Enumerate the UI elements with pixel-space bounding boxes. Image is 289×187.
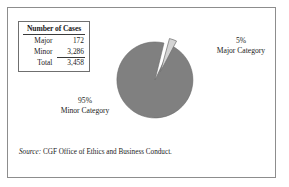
major-percent: 5%: [205, 36, 277, 46]
row-value-minor: 3,286: [57, 46, 85, 57]
number-of-cases-table: Number of Cases Major 172 Minor 3,286 To…: [18, 21, 90, 72]
table-row: Minor 3,286: [23, 46, 85, 57]
minor-name: Minor Category: [40, 106, 130, 116]
source-text: CGF Office of Ethics and Business Conduc…: [43, 148, 172, 156]
row-label-total: Total: [23, 57, 57, 68]
minor-percent: 95%: [40, 96, 130, 106]
table-row: Total 3,458: [23, 57, 85, 68]
source-note: Source: CGF Office of Ethics and Busines…: [19, 148, 172, 157]
table-row: Major 172: [23, 34, 85, 46]
source-prefix: Source:: [19, 148, 41, 156]
row-label-major: Major: [23, 34, 57, 46]
table: Number of Cases Major 172 Minor 3,286 To…: [23, 24, 85, 68]
label-minor-category: 95% Minor Category: [40, 96, 130, 117]
major-name: Major Category: [205, 46, 277, 56]
row-value-major: 172: [57, 34, 85, 46]
table-title: Number of Cases: [23, 24, 85, 34]
row-label-minor: Minor: [23, 46, 57, 57]
table-header-row: Number of Cases: [23, 24, 85, 34]
pie-chart-figure: Number of Cases Major 172 Minor 3,286 To…: [0, 0, 289, 187]
label-major-category: 5% Major Category: [205, 36, 277, 57]
row-value-total: 3,458: [57, 57, 85, 68]
